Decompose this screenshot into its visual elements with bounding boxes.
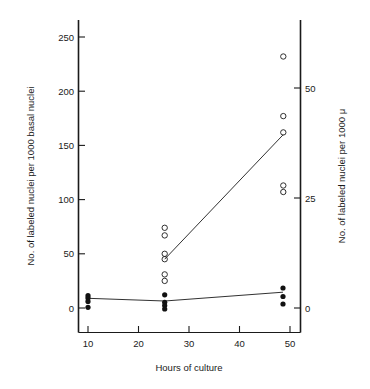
y-axis-left-ticks <box>79 37 86 308</box>
data-point-open <box>281 189 286 194</box>
data-point-filled <box>162 292 167 297</box>
data-point-open <box>281 54 286 59</box>
y-ticklabel-200: 200 <box>58 86 74 97</box>
y-axis-left-title: No. of labeled nuclei per 1000 basal nuc… <box>25 86 36 265</box>
data-point-filled <box>280 285 285 290</box>
data-point-open <box>281 130 286 135</box>
data-point-open <box>281 113 286 118</box>
x-ticklabel-40: 40 <box>234 338 245 349</box>
data-point-open <box>162 251 167 256</box>
filled-circle-mean-line <box>88 292 283 301</box>
data-point-open <box>162 272 167 277</box>
y-axis-left-ticklabels: 250 200 150 100 50 0 <box>58 32 74 314</box>
y2-ticklabel-0: 0 <box>305 303 310 314</box>
y-axis-right-title: No. of labeled nuclei per 1000 μ <box>336 109 347 243</box>
y-ticklabel-0: 0 <box>69 303 74 314</box>
open-circle-mean-line <box>165 135 284 260</box>
filled-circle-series <box>85 285 285 311</box>
chart-canvas: 250 200 150 100 50 0 50 25 0 10 <box>0 0 370 389</box>
data-point-filled <box>162 306 167 311</box>
data-point-filled <box>85 305 90 310</box>
data-point-open <box>162 278 167 283</box>
figure-container: 250 200 150 100 50 0 50 25 0 10 <box>0 0 370 389</box>
y-ticklabel-100: 100 <box>58 194 74 205</box>
data-point-filled <box>280 294 285 299</box>
x-ticklabel-50: 50 <box>285 338 296 349</box>
data-point-filled <box>85 299 90 304</box>
y-axis-right-ticks <box>294 88 301 308</box>
y-ticklabel-250: 250 <box>58 32 74 43</box>
y-axis-right-ticklabels: 50 25 0 <box>305 83 316 314</box>
x-ticklabel-30: 30 <box>184 338 195 349</box>
open-circle-series <box>162 54 286 284</box>
axes-frame <box>79 20 301 333</box>
data-point-open <box>162 233 167 238</box>
data-point-filled <box>280 301 285 306</box>
x-axis-title: Hours of culture <box>155 362 222 373</box>
x-ticklabel-20: 20 <box>133 338 144 349</box>
y2-ticklabel-25: 25 <box>305 193 316 204</box>
x-axis-ticks <box>88 326 290 333</box>
y2-ticklabel-50: 50 <box>305 83 316 94</box>
x-axis-ticklabels: 10 20 30 40 50 <box>83 338 296 349</box>
data-point-open <box>162 225 167 230</box>
y-ticklabel-50: 50 <box>63 248 74 259</box>
x-ticklabel-10: 10 <box>83 338 94 349</box>
data-point-open <box>281 183 286 188</box>
y-ticklabel-150: 150 <box>58 140 74 151</box>
